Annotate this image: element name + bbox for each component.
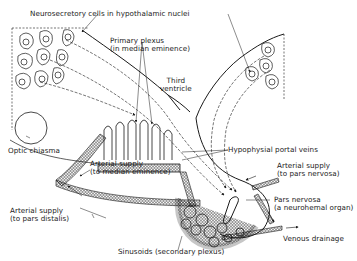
label-arterial-pd-line2: (to pars distalis)	[10, 215, 69, 223]
label-arterial-supply-pars-distalis: Arterial supply (to pars distalis)	[10, 207, 69, 224]
label-neurosecretory-cells: Neurosecretory cells in hypothalamic nuc…	[30, 10, 190, 18]
label-optic-chiasma: Optic chiasma	[8, 147, 60, 155]
neurosecretory-cells-right	[246, 43, 279, 89]
optic-chiasma	[15, 112, 47, 144]
label-third-ventricle-line2: ventricle	[160, 85, 192, 93]
label-venous-drainage: Venous drainage	[283, 235, 344, 243]
label-pars-nervosa-line2: (a neurohemal organ)	[274, 204, 353, 212]
label-arterial-me-line2: (to median eminence)	[90, 168, 171, 176]
label-third-ventricle: Third ventricle	[160, 77, 192, 94]
neurosecretory-cells-left	[16, 30, 74, 89]
label-sinusoids: Sinusoids (secondary plexus)	[118, 248, 224, 256]
label-pars-nervosa: Pars nervosa (a neurohemal organ)	[274, 196, 353, 213]
label-hypophysial-portal-veins: Hypophysial portal veins	[228, 146, 318, 154]
label-primary-plexus: Primary plexus (in median eminence)	[110, 37, 190, 54]
label-arterial-supply-pars-nervosa: Arterial supply (to pars nervosa)	[277, 162, 340, 179]
label-arterial-supply-median-eminence: Arterial supply (to median eminence)	[90, 160, 171, 177]
label-primary-plexus-line2: (in median eminence)	[110, 45, 190, 53]
label-arterial-pn-line2: (to pars nervosa)	[277, 170, 340, 178]
secondary-plexus	[178, 198, 256, 247]
